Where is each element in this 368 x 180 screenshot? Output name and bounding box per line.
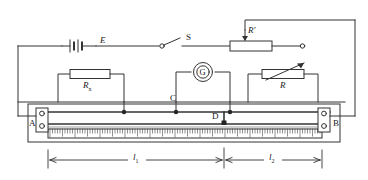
label-resistor-R: R [280, 81, 286, 90]
label-resistor-Rx: Rx [83, 81, 92, 92]
label-contact-C: C [170, 94, 176, 103]
label-contact-D: D [212, 112, 219, 121]
label-galvanometer-G: G [200, 68, 206, 77]
label-terminal-B: B [333, 119, 339, 128]
label-switch-S: S [186, 33, 191, 42]
terminal-block-A [36, 108, 48, 132]
circuit-schematic-svg [0, 0, 368, 180]
circuit-diagram-canvas: E S R' Rx G C D R A B l1 l2 [0, 0, 368, 180]
battery-symbol-E [62, 40, 96, 52]
label-terminal-A: A [29, 119, 36, 128]
label-length-l1: l1 [133, 153, 139, 164]
terminal-block-B [318, 108, 330, 132]
label-rheostat-R-prime: R' [248, 26, 255, 35]
label-battery-E: E [100, 36, 106, 45]
switch-S-symbol [160, 38, 230, 48]
ruler-scale [48, 129, 322, 138]
label-length-l2: l2 [269, 153, 275, 164]
